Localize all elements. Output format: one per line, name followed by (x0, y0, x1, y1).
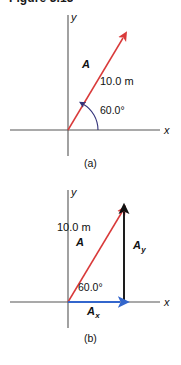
panel-b-y-axis-label: y (71, 187, 77, 198)
panel-b-caption: (b) (84, 333, 97, 344)
panel-b-angle-label: 60.0° (78, 282, 103, 293)
panel-b-graphic (0, 178, 181, 358)
panel-b-component-Ay-label: Ay (133, 240, 145, 251)
panel-b-magnitude-label: 10.0 m (57, 222, 91, 233)
figure-title: Figure 3.13 (9, 0, 73, 5)
panel-a-caption: (a) (84, 158, 97, 169)
panel-a-magnitude-label: 10.0 m (100, 76, 134, 87)
panel-b-vector-label: A (76, 237, 84, 248)
panel-b: x y 10.0 m A Ay Ax 60.0° (b) (0, 178, 181, 358)
panel-b-x-axis-label: x (164, 297, 170, 308)
panel-a-vector-label: A (82, 59, 90, 70)
panel-a-x-axis-label: x (164, 125, 170, 136)
figure-container: Figure 3.13 x y A 10.0 m 6 (0, 0, 181, 365)
panel-a-angle-arc (83, 104, 98, 130)
panel-a-graphic (0, 8, 181, 168)
panel-b-component-Ax-letter: A (87, 305, 95, 317)
panel-b-component-Ax-subscript: x (95, 311, 99, 320)
panel-b-component-Ax-label: Ax (87, 306, 99, 317)
panel-a-y-axis-label: y (71, 12, 77, 23)
panel-b-component-Ay-letter: A (133, 239, 141, 251)
panel-a: x y A 10.0 m 60.0° (a) (0, 8, 181, 168)
panel-b-component-Ay-subscript: y (141, 245, 145, 254)
panel-a-angle-label: 60.0° (100, 105, 125, 116)
